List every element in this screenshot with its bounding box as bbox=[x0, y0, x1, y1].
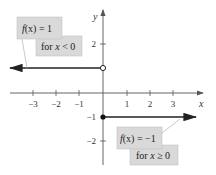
annotation-upper-cond-post: < 0 bbox=[60, 41, 76, 52]
annotation-upper-fexpr: (x) = 1 bbox=[25, 23, 52, 35]
x-axis-label: x bbox=[198, 98, 204, 109]
annotation-upper-cond-pre: for bbox=[41, 41, 55, 52]
open-endpoint bbox=[100, 65, 105, 70]
y-tick-label: −1 bbox=[86, 112, 96, 122]
svg-text:f(x) = 1: f(x) = 1 bbox=[22, 23, 52, 35]
x-tick-label: 2 bbox=[148, 99, 153, 109]
piecewise-graph: x y −3 −2 −1 1 2 3 2 −1 −2 f(x) = 1 bbox=[0, 0, 216, 175]
annotation-lower-cond-pre: for bbox=[136, 150, 150, 161]
annotation-lower-cond-post: ≥ 0 bbox=[155, 150, 171, 161]
svg-text:for x ≥ 0: for x ≥ 0 bbox=[136, 150, 170, 161]
closed-endpoint bbox=[100, 114, 105, 119]
x-tick-label: −1 bbox=[74, 99, 84, 109]
svg-text:for x < 0: for x < 0 bbox=[41, 41, 75, 52]
x-tick-label: −3 bbox=[28, 99, 38, 109]
y-tick-label: 2 bbox=[92, 39, 97, 49]
y-axis-label: y bbox=[92, 11, 98, 22]
annotation-lower: f(x) = −1 for x ≥ 0 bbox=[117, 119, 180, 165]
svg-text:f(x) = −1: f(x) = −1 bbox=[120, 133, 156, 145]
x-tick-label: 3 bbox=[171, 99, 176, 109]
annotation-lower-fexpr: (x) = −1 bbox=[123, 133, 156, 145]
y-tick-label: −2 bbox=[86, 136, 96, 146]
annotation-upper: f(x) = 1 for x < 0 bbox=[17, 17, 82, 68]
x-tick-label: −2 bbox=[51, 99, 61, 109]
x-tick-label: 1 bbox=[125, 99, 130, 109]
